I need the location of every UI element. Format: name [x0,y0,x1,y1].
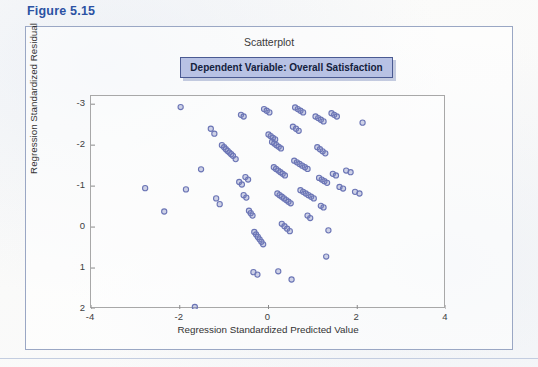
y-tick-label: 0 [63,220,85,231]
scatter-point [278,146,283,151]
y-tick-label: -1 [63,179,85,190]
scatter-point [239,182,244,187]
scatter-point [233,156,238,161]
dependent-variable-callout: Dependent Variable: Overall Satisfaction [180,57,393,78]
scatter-point [183,187,188,192]
scatter-point [208,126,213,131]
scatter-point [282,173,287,178]
scatter-point [323,151,328,156]
scatter-point [321,205,326,210]
y-tick-label: -3 [63,97,85,108]
x-tick-label: 2 [344,311,368,322]
x-tick-label: 0 [256,311,280,322]
dependent-variable-label: Dependent Variable: Overall Satisfaction [190,62,382,73]
y-tick-label: 1 [63,261,85,272]
scatter-point [244,195,249,200]
scatter-point [245,177,250,182]
x-tick-label: -2 [167,311,191,322]
scatter-point [348,170,353,175]
scatter-point [311,196,316,201]
x-tick-label: -4 [78,311,102,322]
plot-area [90,95,445,308]
scatter-point [192,304,197,309]
scatter-point [333,173,338,178]
scatter-point [162,209,167,214]
x-axis-title: Regression Standardized Predicted Value [88,324,448,335]
scatter-point [255,272,260,277]
scatter-point [305,166,310,171]
scatter-point [296,128,301,133]
scatter-point [267,110,272,115]
scatter-point [261,242,266,247]
scatter-point [357,191,362,196]
page-bottom-rule [0,358,538,359]
y-tick-label: -2 [63,138,85,149]
chart-title: Scatterplot [0,36,538,48]
scatter-point [326,228,331,233]
scatter-point [241,114,246,119]
y-axis-title: Regression Standardized Residual [28,4,39,194]
scatter-point [301,110,306,115]
scatter-point [276,269,281,274]
scatter-point [217,202,222,207]
scatter-point [334,114,339,119]
scatter-point [198,167,203,172]
scatter-point [289,277,294,282]
scatter-point [324,180,329,185]
x-tick-label: 4 [433,311,457,322]
scatter-point [250,213,255,218]
scatter-point [214,196,219,201]
scatter-point [324,254,329,259]
scatter-point [287,229,292,234]
scatter-point [340,186,345,191]
scatter-plot-svg [91,96,446,309]
scatter-point [143,186,148,191]
scatter-point [178,104,183,109]
scatter-point [360,120,365,125]
scatter-point [321,119,326,124]
scatter-point [288,201,293,206]
scatter-point [212,131,217,136]
scatter-point [308,215,313,220]
